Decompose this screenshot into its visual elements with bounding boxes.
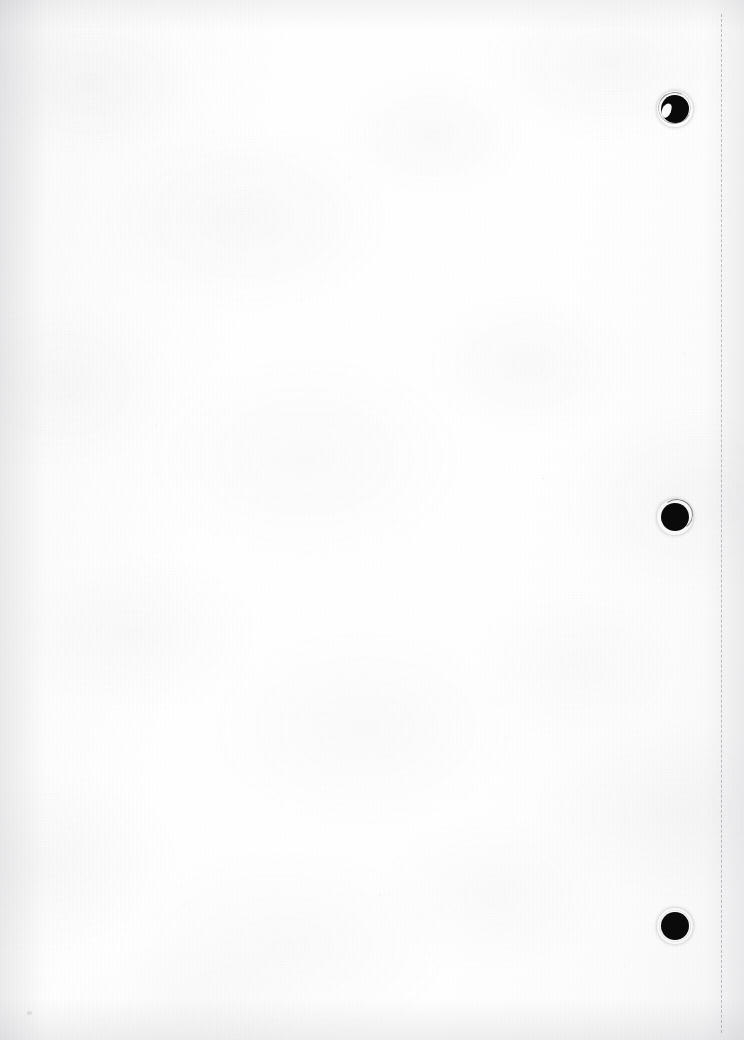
page-text-content xyxy=(0,0,744,1040)
scanned-page xyxy=(0,0,744,1040)
